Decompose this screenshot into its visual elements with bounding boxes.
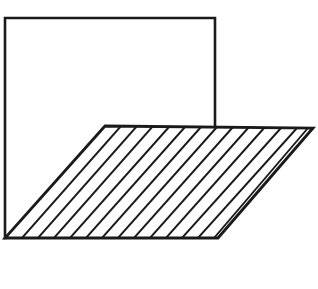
- figure-caption: [0, 277, 318, 289]
- figure-background: [0, 0, 318, 289]
- figure-drawing: [0, 0, 318, 289]
- figure-page: [0, 0, 318, 289]
